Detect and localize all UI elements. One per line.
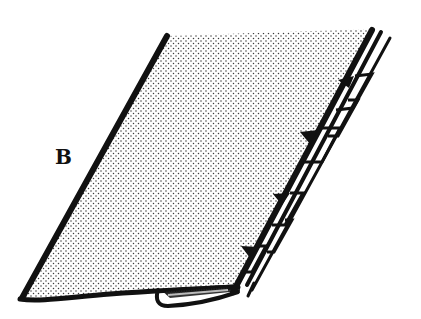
label-b: B <box>55 147 72 167</box>
